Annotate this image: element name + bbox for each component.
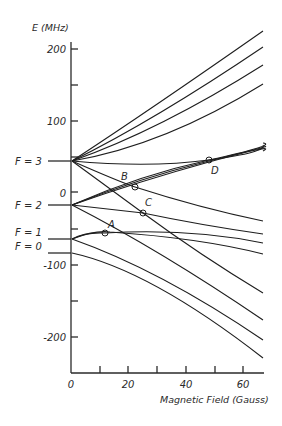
x-tick-label-0: 0 — [68, 379, 74, 390]
y-tick-label-100: 100 — [47, 116, 66, 127]
zero-field-levels — [48, 161, 71, 253]
y-tick-label-minus-100: -100 — [43, 260, 66, 271]
x-axis-title: Magnetic Field (Gauss) — [160, 394, 269, 405]
annotation-c: C — [145, 197, 152, 208]
y-tick-label-0: 0 — [60, 188, 66, 199]
level-label-f3: F = 3 — [15, 156, 42, 167]
x-tick-label-60: 60 — [237, 379, 250, 390]
curves-f3 — [72, 31, 263, 293]
x-ticks — [100, 366, 243, 373]
curves-f1 — [72, 232, 263, 340]
y-tick-label-200: 200 — [47, 44, 66, 55]
y-tick-label-minus-200: -200 — [43, 332, 66, 343]
curves-f0 — [72, 253, 263, 358]
y-ticks — [71, 49, 78, 337]
level-label-f0: F = 0 — [15, 241, 42, 252]
annotation-d: D — [211, 165, 219, 176]
x-tick-label-20: 20 — [122, 379, 135, 390]
x-tick-label-40: 40 — [180, 379, 193, 390]
zeeman-energy-chart: 200 100 0 -100 -200 0 20 40 60 E (MHz) M… — [0, 0, 282, 426]
annotation-a: A — [107, 219, 115, 230]
level-label-f2: F = 2 — [15, 200, 42, 211]
y-axis-title: E (MHz) — [32, 22, 69, 33]
level-label-f1: F = 1 — [15, 227, 42, 238]
annotation-b: B — [121, 171, 128, 182]
